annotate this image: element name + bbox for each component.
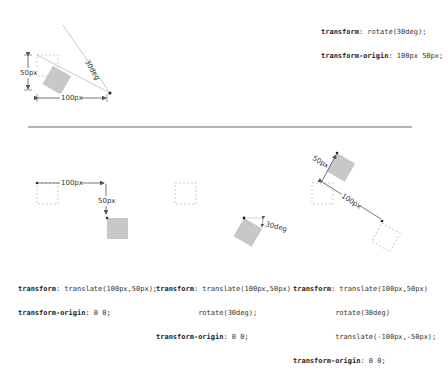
top-code: transform: rotate(30deg); transform-orig… — [321, 14, 443, 74]
x-label: 100px — [61, 179, 83, 187]
panel-translate: 100px 50px — [36, 178, 128, 239]
final-box — [327, 153, 356, 182]
origin-point — [108, 91, 111, 94]
angle-label: 30deg — [83, 58, 101, 81]
panel-translate-rotate: 30deg — [175, 183, 288, 247]
rotated-box — [234, 218, 263, 247]
panel-translate-rotate-translate: 50px 100px — [311, 152, 400, 252]
angle-label: 30deg — [264, 220, 287, 233]
panel-3-code: transform: translate(100px,50px) rotate(… — [293, 271, 436, 369]
translated-box — [107, 218, 128, 239]
height-label: 50px — [20, 69, 38, 77]
y-label: 50px — [98, 197, 116, 205]
top-diagram: 50px 100px 30deg — [18, 25, 112, 103]
width-label: 100px — [61, 94, 83, 102]
panel-1-code: transform: translate(100px,50px); transf… — [18, 271, 157, 331]
panel-2-code: transform: translate(100px,50px) rotate(… — [156, 271, 291, 355]
y-label: 50px — [311, 154, 330, 170]
x-label: 100px — [340, 192, 363, 210]
